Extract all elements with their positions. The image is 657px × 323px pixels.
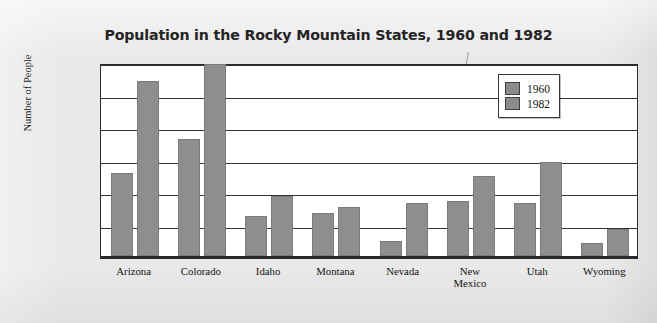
chart-page: Population in the Rocky Mountain States,… [0,0,657,323]
chart-legend: 1960 1982 [498,74,560,118]
bar-wyoming-1960 [581,243,603,256]
bar-utah-1982 [540,162,562,256]
x-axis-tick-label: Wyoming [571,266,638,278]
legend-label-1960: 1960 [527,83,550,95]
bar-nevada-1982 [406,203,428,256]
bar-arizona-1982 [137,81,159,257]
chart-title: Population in the Rocky Mountain States,… [0,27,657,43]
bar-utah-1960 [514,203,536,256]
bar-montana-1982 [338,207,360,256]
bar-new-mexico-1982 [473,176,495,256]
x-axis-tick-label: Arizona [100,266,167,278]
bar-wyoming-1982 [607,229,629,256]
legend-swatch-1960 [505,82,520,95]
legend-item-1960: 1960 [505,82,550,95]
x-axis-tick-label: Utah [504,266,571,278]
y-axis-title: Number of People [22,38,33,148]
x-axis-tick-label: Idaho [235,266,302,278]
bar-montana-1960 [312,213,334,256]
x-axis-tick-label: Colorado [167,266,234,278]
x-axis-tick-label: New Mexico [436,266,503,289]
bar-idaho-1982 [271,196,293,256]
bar-colorado-1982 [204,64,226,256]
x-axis-tick-label: Montana [302,266,369,278]
bar-colorado-1960 [178,139,200,256]
legend-swatch-1982 [505,97,520,110]
bar-idaho-1960 [245,216,267,256]
bar-nevada-1960 [380,241,402,256]
x-axis-tick-label: Nevada [369,266,436,278]
bar-arizona-1960 [111,173,133,256]
bar-new-mexico-1960 [447,201,469,256]
legend-label-1982: 1982 [527,98,550,110]
legend-item-1982: 1982 [505,97,550,110]
